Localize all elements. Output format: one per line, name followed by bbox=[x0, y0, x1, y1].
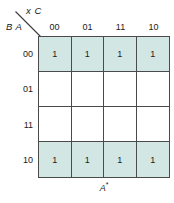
kmap-cell bbox=[72, 72, 105, 107]
column-header: 11 bbox=[104, 20, 137, 34]
kmap-cell: 1 bbox=[39, 142, 72, 177]
column-variables-label: x C bbox=[26, 5, 42, 16]
row-header: 01 bbox=[8, 72, 35, 108]
output-function-superscript: * bbox=[106, 181, 109, 188]
kmap-cell bbox=[39, 72, 72, 107]
kmap-cell bbox=[104, 72, 137, 107]
row-header: 00 bbox=[8, 36, 35, 72]
kmap-cell: 1 bbox=[72, 142, 105, 177]
kmap-cell: 1 bbox=[104, 37, 137, 72]
kmap-cell: 1 bbox=[39, 37, 72, 72]
column-header: 00 bbox=[38, 20, 71, 34]
kmap-cell: 1 bbox=[137, 37, 170, 72]
row-variables-label: B A bbox=[6, 21, 22, 32]
column-header: 01 bbox=[71, 20, 104, 34]
kmap-cell bbox=[39, 107, 72, 142]
karnaugh-map-diagram: x C B A 00 01 11 10 00 01 11 10 1 1 1 1 … bbox=[0, 0, 174, 203]
kmap-cell bbox=[137, 72, 170, 107]
kmap-cell bbox=[137, 107, 170, 142]
kmap-cell bbox=[72, 107, 105, 142]
kmap-grid: 1 1 1 1 1 1 1 1 bbox=[38, 36, 170, 178]
kmap-cell bbox=[104, 107, 137, 142]
kmap-cell: 1 bbox=[137, 142, 170, 177]
output-function-label: A* bbox=[38, 181, 170, 193]
kmap-cell: 1 bbox=[104, 142, 137, 177]
kmap-cell: 1 bbox=[72, 37, 105, 72]
row-header-column: 00 01 11 10 bbox=[8, 36, 35, 178]
row-header: 10 bbox=[8, 143, 35, 179]
column-header: 10 bbox=[137, 20, 170, 34]
row-header: 11 bbox=[8, 107, 35, 143]
column-header-row: 00 01 11 10 bbox=[38, 20, 170, 34]
